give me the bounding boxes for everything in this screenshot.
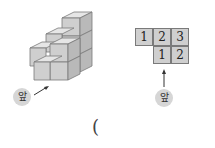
grid-cell: 2	[171, 46, 189, 64]
answer-blank: (	[92, 116, 99, 137]
grid-cell: 2	[153, 28, 171, 46]
grid-cell: 1	[153, 46, 171, 64]
arrow-up-icon	[159, 68, 169, 88]
top-view-grid: 1 2 3 1 2	[135, 28, 191, 68]
grid-cell: 1	[135, 28, 153, 46]
arrow-icon	[32, 82, 52, 98]
grid-cell: 3	[171, 28, 189, 46]
front-label-right: 앞	[155, 89, 173, 107]
front-label-left: 앞	[13, 88, 31, 106]
